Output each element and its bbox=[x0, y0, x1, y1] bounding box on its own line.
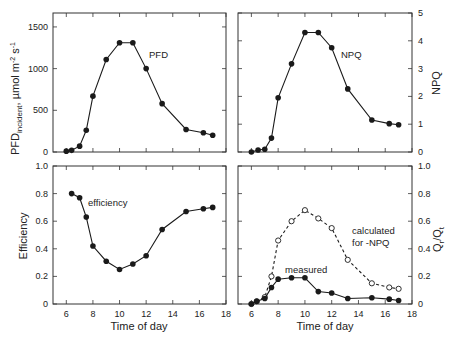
data-point bbox=[83, 128, 89, 134]
data-point-open bbox=[276, 238, 281, 243]
data-point bbox=[262, 296, 268, 302]
data-point bbox=[275, 95, 281, 101]
data-point bbox=[302, 30, 308, 36]
y-tick-label: 0.6 bbox=[418, 216, 431, 226]
data-point bbox=[103, 57, 109, 63]
data-point bbox=[69, 148, 75, 154]
calculated-annotation-line2: for -NPQ bbox=[352, 237, 389, 248]
y-tick-label: 5 bbox=[418, 8, 423, 18]
data-point bbox=[90, 243, 96, 249]
y-tick-label: 1.0 bbox=[418, 161, 431, 171]
y-tick-label: 1000 bbox=[28, 64, 48, 74]
data-point bbox=[69, 191, 75, 197]
y-tick-label: 1 bbox=[418, 119, 423, 129]
data-point-open bbox=[316, 216, 321, 221]
y-tick-label: 0.2 bbox=[35, 271, 48, 281]
x-tick-label: 14 bbox=[353, 309, 363, 319]
plot-frame bbox=[53, 166, 226, 304]
efficiency-panel: 68101214161800.20.40.60.81.0 bbox=[35, 161, 231, 319]
y-tick-label: 500 bbox=[33, 105, 48, 115]
data-point bbox=[369, 295, 375, 301]
y-tick-label: 0 bbox=[43, 299, 48, 309]
data-point bbox=[369, 117, 375, 123]
y-tick-label: 0.8 bbox=[35, 189, 48, 199]
series-line bbox=[251, 278, 398, 304]
series-line bbox=[251, 32, 398, 152]
x-axis-title-right: Time of day bbox=[296, 320, 354, 332]
y-axis-title-qr-qt: Qr/Qt bbox=[431, 226, 446, 252]
x-tick-label: 10 bbox=[300, 309, 310, 319]
efficiency-annotation: efficiency bbox=[88, 197, 128, 208]
plot-frame bbox=[238, 13, 412, 152]
y-tick-label: 1.0 bbox=[35, 161, 48, 171]
data-point bbox=[345, 86, 351, 92]
x-tick-label: 10 bbox=[115, 309, 125, 319]
x-tick-label: 8 bbox=[276, 309, 281, 319]
data-point bbox=[210, 133, 216, 139]
y-tick-label: 0 bbox=[418, 147, 423, 157]
pfd-annotation: PFD bbox=[149, 49, 168, 60]
data-point bbox=[249, 149, 255, 155]
data-point-open bbox=[289, 219, 294, 224]
data-point bbox=[143, 66, 149, 72]
y-tick-label: 0.8 bbox=[418, 189, 431, 199]
y-tick-label: 0.2 bbox=[418, 271, 431, 281]
x-tick-label: 18 bbox=[221, 309, 231, 319]
data-point bbox=[329, 45, 335, 51]
x-tick-label: 18 bbox=[407, 309, 417, 319]
data-point bbox=[77, 143, 83, 149]
data-point bbox=[386, 121, 392, 127]
pfd-panel: 050010001500 bbox=[28, 13, 226, 157]
npq-panel: 012345 bbox=[238, 8, 423, 157]
data-point bbox=[183, 209, 189, 215]
data-point-open bbox=[387, 285, 392, 290]
data-point bbox=[77, 195, 83, 201]
y-axis-title-efficiency: Efficiency bbox=[17, 212, 29, 259]
data-point bbox=[159, 101, 165, 107]
y-tick-label: 0.6 bbox=[35, 216, 48, 226]
y-tick-label: 0.4 bbox=[35, 244, 48, 254]
y-tick-label: 4 bbox=[418, 36, 423, 46]
data-point bbox=[249, 301, 255, 307]
data-point-open bbox=[369, 281, 374, 286]
data-point bbox=[117, 40, 123, 46]
y-tick-label: 0 bbox=[43, 147, 48, 157]
data-point bbox=[396, 122, 402, 128]
data-point bbox=[103, 258, 109, 264]
y-tick-label: 0.4 bbox=[418, 244, 431, 254]
data-point bbox=[159, 227, 165, 233]
y-tick-label: 2 bbox=[418, 91, 423, 101]
data-point-open bbox=[345, 257, 350, 262]
data-point bbox=[201, 130, 207, 136]
data-point bbox=[329, 290, 335, 296]
data-point bbox=[117, 267, 123, 273]
data-point-open bbox=[396, 286, 401, 291]
x-tick-label: 6 bbox=[64, 309, 69, 319]
series-line bbox=[66, 43, 212, 151]
data-point bbox=[269, 135, 275, 141]
measured-annotation: measured bbox=[285, 264, 327, 275]
x-tick-label: 16 bbox=[194, 309, 204, 319]
x-tick-label: 14 bbox=[168, 309, 178, 319]
data-point-open bbox=[302, 208, 307, 213]
data-point bbox=[83, 214, 89, 220]
x-tick-label: 12 bbox=[327, 309, 337, 319]
data-point bbox=[302, 275, 308, 281]
npq-annotation: NPQ bbox=[341, 49, 362, 60]
data-point bbox=[90, 93, 96, 99]
x-tick-label: 12 bbox=[141, 309, 151, 319]
data-point-open bbox=[329, 226, 334, 231]
data-point bbox=[201, 206, 207, 212]
data-point bbox=[316, 30, 322, 36]
data-point bbox=[262, 146, 268, 152]
x-tick-label: 16 bbox=[380, 309, 390, 319]
x-axis-title-left: Time of day bbox=[110, 320, 168, 332]
data-point bbox=[289, 275, 295, 281]
data-point bbox=[64, 148, 70, 154]
calculated-annotation-line1: calculated bbox=[352, 225, 395, 236]
data-point bbox=[143, 253, 149, 259]
data-point bbox=[269, 285, 275, 291]
data-point bbox=[316, 289, 322, 295]
data-point bbox=[254, 298, 260, 304]
y-tick-label: 3 bbox=[418, 64, 423, 74]
